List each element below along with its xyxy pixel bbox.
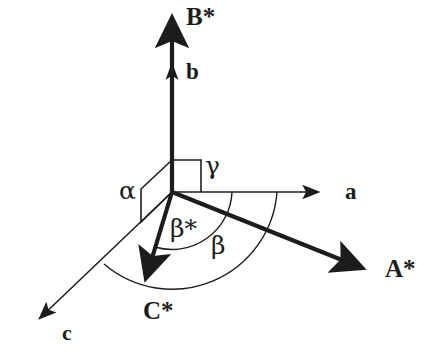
crystal-axes-diagram: B* b a A* C* c γ α β* β	[0, 0, 442, 363]
angle-label-beta: β	[211, 233, 225, 258]
angle-label-alpha: α	[119, 178, 136, 203]
axis-label-b: b	[186, 60, 199, 83]
axis-label-C-star: C*	[143, 298, 174, 323]
angle-label-gamma: γ	[205, 153, 220, 178]
axes-vector-canvas	[0, 0, 442, 363]
axis-label-c: c	[62, 322, 72, 344]
axis-label-a: a	[345, 180, 357, 203]
gamma-right-angle-marker	[172, 160, 201, 192]
axis-label-B-star: B*	[186, 4, 215, 29]
angle-label-beta-star: β*	[170, 216, 197, 241]
axis-label-A-star: A*	[385, 256, 416, 281]
